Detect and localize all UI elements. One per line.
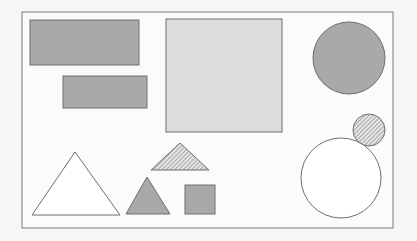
light-square-large: [166, 19, 282, 132]
dark-rectangle-small: [63, 76, 147, 108]
white-circle-large: [301, 138, 381, 218]
dark-rectangle-large: [30, 20, 139, 65]
dark-circle: [313, 22, 385, 94]
shapes-diagram: [0, 0, 417, 241]
dark-square-small: [185, 185, 215, 214]
